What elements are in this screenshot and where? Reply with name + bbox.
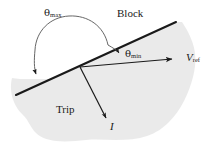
theta-min-subscript: min (131, 52, 141, 59)
v-ref-symbol: V (186, 51, 193, 63)
theta-min-label: θmin (125, 49, 141, 60)
figure-canvas (0, 0, 215, 144)
v-ref-subscript: ref (193, 56, 200, 63)
relay-characteristic-figure: θmax Block θmin Vref Trip I (0, 0, 215, 144)
theta-max-subscript: max (50, 11, 62, 18)
trip-region-label: Trip (56, 104, 75, 115)
block-region-label: Block (117, 8, 143, 19)
theta-max-label: θmax (44, 8, 62, 19)
shaded-region (11, 22, 195, 141)
v-ref-label: Vref (186, 52, 200, 64)
current-vector-label: I (110, 121, 114, 132)
